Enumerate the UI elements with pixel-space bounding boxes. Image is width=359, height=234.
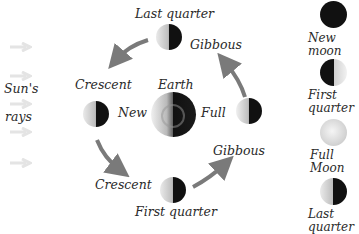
legend-full-moon-icon bbox=[320, 119, 347, 146]
legend-new-label: Newmoon bbox=[308, 32, 342, 58]
arrow-first-to-gibbous bbox=[193, 164, 225, 187]
label-crescent-left: Crescent bbox=[75, 79, 132, 92]
legend-first-quarter-icon bbox=[320, 59, 347, 86]
moon-full-orbit bbox=[236, 98, 262, 124]
legend-full-label: FullMoon bbox=[310, 149, 344, 175]
earth-globe bbox=[151, 92, 196, 137]
label-first-quarter: First quarter bbox=[135, 206, 217, 219]
moon-last-quarter-orbit bbox=[156, 24, 182, 50]
moon-new-orbit bbox=[83, 101, 109, 127]
label-full: Full bbox=[201, 107, 226, 120]
label-gibbous-top: Gibbous bbox=[190, 39, 242, 52]
label-crescent-bottom: Crescent bbox=[95, 179, 152, 192]
legend-new-moon-icon bbox=[320, 1, 347, 28]
arrow-crescent-to-crescent bbox=[97, 140, 120, 170]
arrow-full-to-gibbous bbox=[225, 62, 245, 97]
legend-last-quarter-label: Lastquarter bbox=[308, 208, 354, 234]
legend-first-quarter-label: Firstquarter bbox=[308, 89, 354, 115]
moon-first-quarter-orbit bbox=[160, 177, 186, 203]
label-earth: Earth bbox=[158, 79, 194, 92]
arrow-last-to-crescent bbox=[116, 40, 148, 60]
legend-last-quarter-icon bbox=[320, 178, 347, 205]
label-last-quarter: Last quarter bbox=[135, 8, 214, 21]
label-gibbous-bottom: Gibbous bbox=[213, 145, 265, 158]
label-new: New bbox=[118, 107, 147, 120]
